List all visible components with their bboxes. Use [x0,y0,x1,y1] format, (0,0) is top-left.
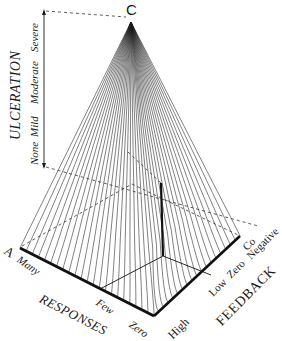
ulceration-surface-diagram: C ULCERATION None Mild Moderate Severe A… [0,0,282,341]
apex-label: C [126,1,137,18]
ulceration-tick-severe: Severe [28,23,40,52]
ulceration-axis [42,9,46,169]
ulceration-axis-title: ULCERATION [8,51,24,140]
ulceration-tick-none: None [28,142,40,165]
ulceration-tick-moderate: Moderate [28,61,40,104]
ulceration-tick-mild: Mild [28,116,40,137]
